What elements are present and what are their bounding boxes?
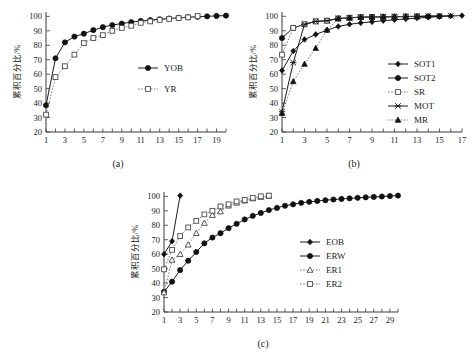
legend-item-MOT[interactable]: MOT <box>388 101 435 111</box>
y-tick-label: 70 <box>152 235 161 245</box>
data-point-filled-triangle <box>313 45 319 50</box>
y-tick-label: 60 <box>34 69 43 79</box>
data-point-open-square <box>218 204 223 209</box>
data-point-filled-circle <box>218 231 223 236</box>
data-point-open-square <box>194 219 199 224</box>
data-point-open-square <box>146 87 151 92</box>
legend-item-YOB[interactable]: YOB <box>138 63 183 73</box>
data-point-filled-circle <box>226 226 231 231</box>
x-tick-label: 7 <box>101 135 105 145</box>
y-tick-label: 30 <box>270 113 279 123</box>
legend-item-ER1[interactable]: ER1 <box>300 265 342 275</box>
data-point-open-square <box>72 52 77 57</box>
y-axis-title: 累积百分比/% <box>130 225 140 279</box>
x-tick-label: 17 <box>193 135 202 145</box>
y-tick-label: 80 <box>152 220 161 230</box>
y-tick-label: 40 <box>152 278 161 288</box>
data-point-filled-circle <box>395 75 400 80</box>
y-tick-label: 80 <box>34 40 43 50</box>
data-point-filled-circle <box>266 207 271 212</box>
chart-panel-b: 20304050607080901001357911131517累积百分比/%S… <box>236 0 472 180</box>
data-point-filled-circle <box>72 34 77 39</box>
data-point-filled-circle <box>363 195 368 200</box>
y-tick-label: 20 <box>152 307 161 317</box>
legend-label: ERW <box>326 251 346 261</box>
legend-item-MR[interactable]: MR <box>388 115 428 125</box>
x-tick-label: 29 <box>386 315 395 325</box>
data-point-filled-diamond <box>178 193 183 199</box>
data-point-filled-circle <box>186 258 191 263</box>
data-point-open-square <box>176 16 181 21</box>
data-point-filled-circle <box>307 199 312 204</box>
x-tick-label: 21 <box>321 315 330 325</box>
data-point-filled-circle <box>53 56 58 61</box>
data-point-open-square <box>119 26 124 31</box>
y-axis-title: 累积百分比/% <box>248 45 258 99</box>
legend-item-SR[interactable]: SR <box>388 87 425 97</box>
data-point-open-square <box>157 18 162 23</box>
x-tick-label: 1 <box>44 135 48 145</box>
x-tick-label: 1 <box>280 135 284 145</box>
data-point-open-square <box>195 14 200 19</box>
x-tick-label: 3 <box>178 315 182 325</box>
x-tick-label: 13 <box>155 135 164 145</box>
data-point-open-square <box>226 202 231 207</box>
data-point-filled-circle <box>178 267 183 272</box>
y-tick-label: 50 <box>270 84 279 94</box>
data-point-filled-circle <box>371 194 376 199</box>
x-tick-label: 9 <box>120 135 124 145</box>
data-point-filled-circle <box>242 217 247 222</box>
x-tick-label: 15 <box>273 315 282 325</box>
data-point-filled-diamond <box>396 61 401 67</box>
x-tick-label: 7 <box>210 315 214 325</box>
legend-label: ER2 <box>326 279 342 289</box>
data-point-filled-circle <box>110 22 115 27</box>
data-point-open-square <box>148 19 153 24</box>
legend-item-SOT2[interactable]: SOT2 <box>388 73 436 83</box>
legend-item-YR[interactable]: YR <box>138 84 177 94</box>
x-tick-label: 11 <box>390 135 398 145</box>
data-point-open-square <box>110 28 115 33</box>
y-tick-label: 50 <box>152 264 161 274</box>
data-point-open-triangle <box>201 220 207 225</box>
y-tick-label: 50 <box>34 84 43 94</box>
data-point-filled-triangle <box>279 110 285 115</box>
y-tick-label: 70 <box>270 55 279 65</box>
data-point-filled-circle <box>258 210 263 215</box>
y-tick-label: 80 <box>270 40 279 50</box>
chart-b-canvas: 20304050607080901001357911131517累积百分比/%S… <box>236 0 472 160</box>
data-point-filled-circle <box>194 249 199 254</box>
legend-label: YR <box>164 84 177 94</box>
y-tick-label: 20 <box>270 127 279 137</box>
chart-c-canvas: 2030405060708090100135791113151719212325… <box>118 180 408 340</box>
y-tick-label: 90 <box>270 26 279 36</box>
data-point-open-square <box>308 282 313 287</box>
data-point-open-square <box>162 267 167 272</box>
data-point-open-square <box>291 26 296 31</box>
data-point-filled-circle <box>234 221 239 226</box>
data-point-filled-circle <box>379 194 384 199</box>
x-tick-label: 9 <box>370 135 374 145</box>
series-line-ERW <box>164 196 398 292</box>
legend-item-EOB[interactable]: EOB <box>300 237 344 247</box>
legend-label: MOT <box>414 101 435 111</box>
y-tick-label: 100 <box>147 191 160 201</box>
panel-b-caption: (b) <box>236 158 472 169</box>
data-point-open-square <box>280 52 285 57</box>
data-point-cross-star <box>395 103 401 109</box>
data-point-open-square <box>53 75 58 80</box>
legend-item-SOT1[interactable]: SOT1 <box>388 59 436 69</box>
legend-item-ER2[interactable]: ER2 <box>300 279 342 289</box>
data-point-filled-circle <box>315 198 320 203</box>
data-point-filled-circle <box>387 193 392 198</box>
data-point-filled-circle <box>223 13 228 18</box>
data-point-open-square <box>186 15 191 20</box>
data-point-filled-circle <box>355 195 360 200</box>
legend-item-ERW[interactable]: ERW <box>300 251 346 261</box>
data-point-filled-circle <box>282 203 287 208</box>
y-tick-label: 40 <box>270 98 279 108</box>
data-point-open-square <box>250 195 255 200</box>
data-point-filled-circle <box>100 25 105 30</box>
x-tick-label: 13 <box>413 135 422 145</box>
x-tick-label: 17 <box>458 135 467 145</box>
